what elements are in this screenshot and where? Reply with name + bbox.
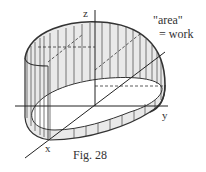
annotation-work: = work — [159, 28, 193, 40]
annotation-area: "area" — [153, 14, 183, 26]
x-axis-label: x — [45, 143, 51, 154]
z-axis-label: z — [83, 8, 88, 19]
y-axis-label: y — [162, 110, 168, 121]
work-area-diagram: z y x "area" = work Fig. 28 — [0, 0, 206, 172]
figure-caption: Fig. 28 — [73, 149, 107, 161]
